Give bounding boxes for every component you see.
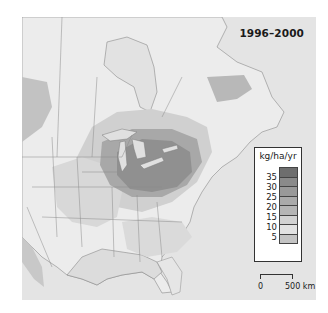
- legend-swatch: [279, 234, 298, 245]
- legend-tick: 35: [266, 173, 277, 182]
- map-frame: 1996–2000 kg/ha/yr 35 30 25 20 15 10 5 0…: [22, 17, 316, 300]
- legend-tick: 25: [266, 193, 277, 202]
- scale-end-label: 500 km: [285, 282, 315, 291]
- scale-bar-line: [260, 274, 293, 279]
- legend-tick: 20: [266, 203, 277, 212]
- legend-unit: kg/ha/yr: [255, 151, 301, 161]
- legend-tick: 5: [272, 233, 277, 242]
- legend-tick: 10: [266, 223, 277, 232]
- legend-tick: 30: [266, 183, 277, 192]
- legend-tick: 15: [266, 213, 277, 222]
- map-title: 1996–2000: [239, 27, 304, 39]
- scale-bar: 0 500 km: [260, 274, 308, 296]
- legend: kg/ha/yr 35 30 25 20 15 10 5: [254, 147, 302, 262]
- scale-start-label: 0: [258, 282, 263, 291]
- legend-swatches: [279, 168, 298, 244]
